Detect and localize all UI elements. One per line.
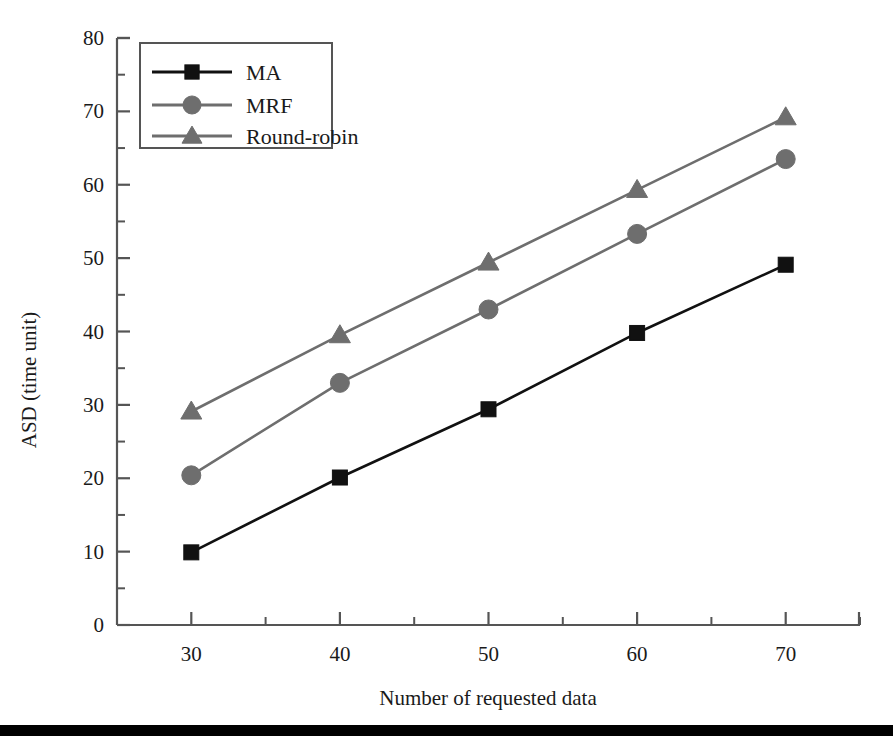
series-round-robin [181, 107, 796, 419]
marker-square [778, 257, 793, 272]
marker-square [630, 325, 645, 340]
y-tick-label: 70 [83, 99, 104, 123]
y-tick-label: 40 [83, 320, 104, 344]
y-axis-title: ASD (time unit) [17, 312, 41, 449]
y-tick-label: 10 [83, 540, 104, 564]
marker-square [185, 65, 199, 79]
figure-container: 01020304050607080 3040506070 ASD (time u… [0, 0, 893, 750]
legend-label: MA [246, 60, 282, 85]
marker-square [481, 402, 496, 417]
x-tick-label: 30 [181, 642, 202, 666]
y-tick-label: 20 [83, 466, 104, 490]
marker-circle [776, 150, 795, 169]
asd-line-chart: 01020304050607080 3040506070 ASD (time u… [0, 0, 893, 750]
y-tick-label: 60 [83, 173, 104, 197]
legend: MAMRFRound-robin [140, 43, 358, 149]
marker-triangle [329, 325, 350, 343]
legend-label: Round-robin [246, 124, 358, 149]
y-tick-label-group: 01020304050607080 [83, 26, 104, 637]
y-tick-label: 0 [94, 613, 105, 637]
marker-circle [330, 373, 349, 392]
x-tick-label-group: 3040506070 [181, 642, 796, 666]
series-mrf [182, 150, 795, 485]
y-tick-group [117, 38, 130, 625]
legend-label: MRF [246, 93, 292, 118]
x-tick-label: 40 [329, 642, 350, 666]
marker-square [332, 470, 347, 485]
marker-triangle [478, 252, 499, 270]
marker-triangle [181, 401, 202, 419]
y-tick-label: 80 [83, 26, 104, 50]
marker-triangle [627, 179, 648, 197]
x-tick-label: 60 [627, 642, 648, 666]
footer-rule [0, 725, 893, 736]
x-tick-label: 70 [775, 642, 796, 666]
x-axis-title: Number of requested data [379, 686, 597, 710]
x-tick-label: 50 [478, 642, 499, 666]
marker-circle [628, 224, 647, 243]
marker-square [184, 545, 199, 560]
y-tick-label: 50 [83, 246, 104, 270]
marker-circle [182, 466, 201, 485]
marker-circle [183, 96, 201, 114]
marker-triangle [775, 107, 796, 125]
x-tick-group [191, 612, 785, 625]
y-tick-label: 30 [83, 393, 104, 417]
marker-circle [479, 300, 498, 319]
data-series-group [181, 107, 796, 560]
